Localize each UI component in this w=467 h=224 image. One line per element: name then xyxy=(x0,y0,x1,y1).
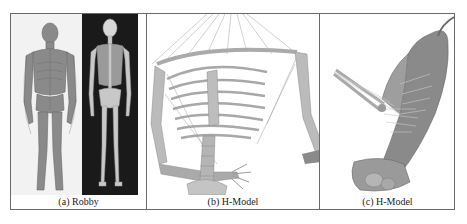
panel-a-robby xyxy=(11,14,146,195)
caption-c: (c) H-Model xyxy=(320,196,455,208)
h-model-upper-body-image xyxy=(147,14,319,195)
robby-model-image xyxy=(11,14,146,195)
panel-c-h-model xyxy=(320,14,455,195)
h-model-side-torso-image xyxy=(320,14,455,195)
panel-b-h-model xyxy=(147,14,319,195)
caption-a: (a) Robby xyxy=(11,196,146,208)
caption-b: (b) H-Model xyxy=(147,196,319,208)
